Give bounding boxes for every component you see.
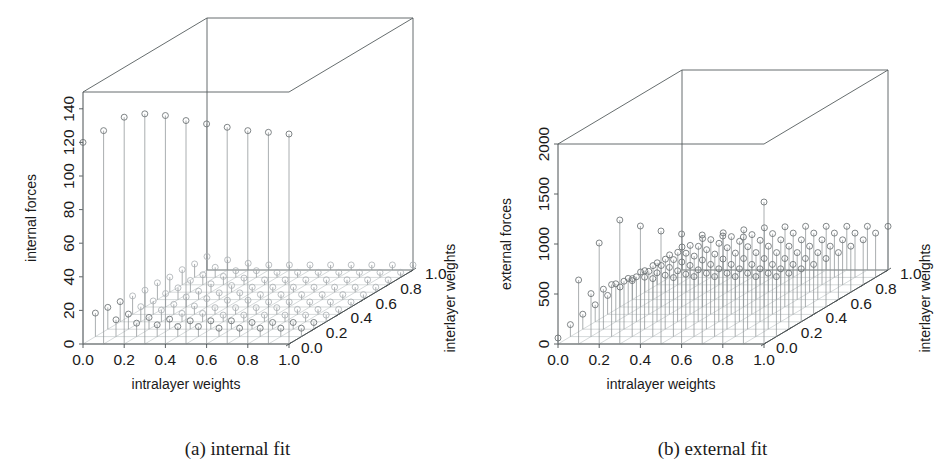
z-tick-label: 140 bbox=[60, 95, 77, 121]
y-tick-label: 0.4 bbox=[351, 309, 373, 326]
y-tick-label: 0.2 bbox=[326, 324, 348, 341]
box-edge-top-right bbox=[289, 18, 413, 92]
z-tick-label: 120 bbox=[60, 129, 77, 155]
z-tick-label: 80 bbox=[60, 201, 77, 219]
x-tick-label: 0.0 bbox=[72, 351, 94, 368]
x-tick-label: 1.0 bbox=[278, 351, 300, 368]
z-tick-label: 40 bbox=[60, 268, 77, 286]
z-axis-title: internal forces bbox=[23, 174, 39, 262]
z-tick-label: 0 bbox=[60, 339, 77, 348]
x-tick-label: 0.8 bbox=[712, 351, 734, 368]
x-tick-label: 0.6 bbox=[671, 351, 693, 368]
axis-labels: 0.00.20.40.60.81.0intralayer weights0.00… bbox=[23, 95, 458, 392]
x-axis-title: intralayer weights bbox=[132, 376, 241, 392]
x-tick-label: 1.0 bbox=[753, 351, 775, 368]
box-edge-top-right bbox=[764, 70, 888, 144]
x-tick-label: 0.2 bbox=[588, 351, 610, 368]
y-tick-label: 0.8 bbox=[400, 280, 422, 297]
x-tick-label: 0.4 bbox=[630, 351, 652, 368]
z-tick-label: 100 bbox=[60, 163, 77, 189]
y-tick-label: 0.0 bbox=[776, 339, 798, 356]
z-tick-label: 1500 bbox=[535, 176, 552, 211]
y-axis-title: interlayer weights bbox=[917, 244, 933, 353]
z-axis-title: external forces bbox=[498, 198, 514, 290]
z-tick-label: 2000 bbox=[535, 126, 552, 161]
y-tick-label: 0.8 bbox=[875, 280, 897, 297]
box-edge-top-left bbox=[558, 70, 682, 144]
z-tick-label: 20 bbox=[60, 301, 77, 319]
box-edge-top-left bbox=[83, 18, 207, 92]
z-tick-label: 1000 bbox=[535, 226, 552, 261]
x-tick-label: 0.4 bbox=[155, 351, 177, 368]
x-axis-title: intralayer weights bbox=[607, 376, 716, 392]
y-tick-label: 0.6 bbox=[375, 295, 397, 312]
y-tick-label: 0.0 bbox=[301, 339, 323, 356]
plot-3d-external: 0.00.20.40.60.81.0intralayer weights0.00… bbox=[475, 0, 950, 466]
z-tick-label: 500 bbox=[535, 281, 552, 307]
caption-panel-b: (b) external fit bbox=[475, 438, 950, 460]
caption-panel-a: (a) internal fit bbox=[0, 438, 475, 460]
z-tick-label: 0 bbox=[535, 339, 552, 348]
figure-container: 0.00.20.40.60.81.0intralayer weights0.00… bbox=[0, 0, 950, 466]
x-tick-label: 0.2 bbox=[113, 351, 135, 368]
y-tick-label: 0.2 bbox=[801, 324, 823, 341]
z-tick-label: 60 bbox=[60, 234, 77, 252]
y-tick-label: 0.6 bbox=[850, 295, 872, 312]
panel-internal-fit: 0.00.20.40.60.81.0intralayer weights0.00… bbox=[0, 0, 475, 466]
y-axis-title: interlayer weights bbox=[442, 244, 458, 353]
panel-external-fit: 0.00.20.40.60.81.0intralayer weights0.00… bbox=[475, 0, 950, 466]
x-tick-label: 0.6 bbox=[196, 351, 218, 368]
y-tick-label: 0.4 bbox=[826, 309, 848, 326]
plot-3d-internal: 0.00.20.40.60.81.0intralayer weights0.00… bbox=[0, 0, 475, 466]
x-tick-label: 0.8 bbox=[237, 351, 259, 368]
x-tick-label: 0.0 bbox=[547, 351, 569, 368]
